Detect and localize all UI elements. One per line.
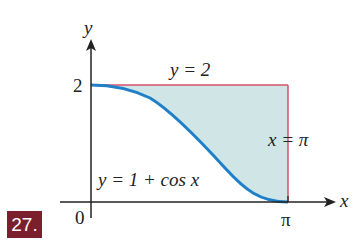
- curve-label: y = 1 + cos x: [98, 170, 199, 189]
- y-axis-label: y: [84, 18, 92, 37]
- y-tick-2: 2: [73, 76, 83, 95]
- top-line-label: y = 2: [170, 60, 210, 79]
- graph: [0, 0, 361, 247]
- right-line-label: x = π: [268, 130, 308, 149]
- x-axis-label: x: [340, 191, 348, 210]
- problem-number-badge: 27.: [7, 211, 42, 238]
- x-tick-pi-label: π: [281, 210, 291, 229]
- origin-label: 0: [75, 208, 85, 227]
